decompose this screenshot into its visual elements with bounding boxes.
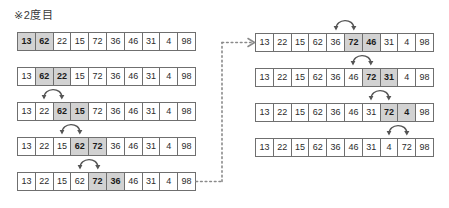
diagram-canvas: ※2度目 13622215723646314981362221572364631…: [0, 0, 449, 208]
dotted-flow-connector: [0, 0, 449, 208]
